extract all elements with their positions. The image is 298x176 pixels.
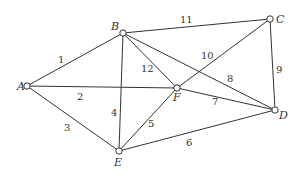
graph-nodes [24,16,278,154]
edge-f-c [177,19,270,88]
edge-weight-label: 10 [201,50,214,61]
node-label-e: E [113,156,122,169]
node-label-d: D [278,109,288,122]
edge-b-e [119,33,123,151]
edge-e-d [119,110,275,151]
edge-b-c [123,19,270,33]
edge-a-f [27,86,177,88]
node-label-c: C [276,13,285,26]
edge-a-e [27,86,119,151]
node-c [267,16,273,22]
edge-c-d [270,19,275,110]
edge-weight-label: 5 [148,118,154,129]
edge-weight-label: 11 [180,14,193,25]
edge-weight-label: 12 [141,63,154,74]
node-label-b: B [110,20,119,33]
edge-weight-label: 8 [227,73,233,84]
edge-f-d [177,88,275,110]
edge-weight-label: 9 [276,64,282,75]
edge-b-f [123,33,177,88]
node-label-f: F [172,91,181,104]
edge-weight-label: 1 [58,54,64,65]
weighted-graph-diagram: 123456789101112 ABCDEF [0,0,298,176]
edge-a-b [27,33,123,86]
node-b [120,30,126,36]
node-d [272,107,278,113]
edge-weight-label: 4 [111,107,117,118]
edge-weight-label: 3 [64,122,70,133]
node-label-a: A [16,80,25,93]
edge-weight-label: 6 [186,137,192,148]
node-e [116,148,122,154]
edge-weight-label: 2 [77,91,83,102]
edge-weight-label: 7 [212,96,218,107]
